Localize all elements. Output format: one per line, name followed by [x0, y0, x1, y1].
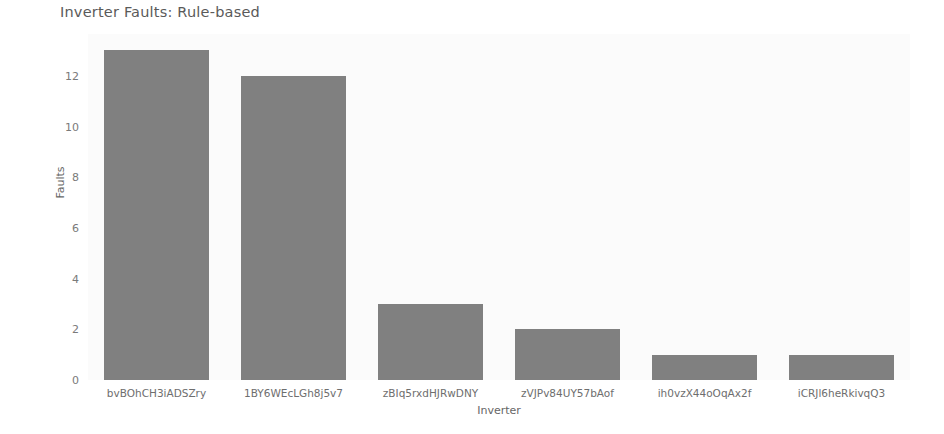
y-axis-label: Faults	[54, 123, 67, 243]
bar[interactable]	[652, 355, 756, 380]
bar-slot: zBIq5rxdHJRwDNY	[362, 34, 499, 380]
bar[interactable]	[515, 329, 619, 380]
bar-slot: zVJPv84UY57bAof	[499, 34, 636, 380]
x-tick-label: 1BY6WEcLGh8j5v7	[244, 387, 343, 399]
y-tick-label: 8	[72, 171, 79, 184]
bar[interactable]	[789, 355, 893, 380]
y-tick-label: 10	[65, 120, 79, 133]
bar-slot: bvBOhCH3iADSZry	[88, 34, 225, 380]
bar-slot: ih0vzX44oOqAx2f	[636, 34, 773, 380]
bar-slot: iCRJl6heRkivqQ3	[773, 34, 910, 380]
bar-series: bvBOhCH3iADSZry1BY6WEcLGh8j5v7zBIq5rxdHJ…	[88, 34, 910, 380]
bar-chart-figure: Inverter Faults: Rule-based Faults 02468…	[0, 0, 944, 434]
x-tick-label: bvBOhCH3iADSZry	[107, 387, 206, 399]
bar[interactable]	[378, 304, 482, 380]
y-tick-label: 4	[72, 272, 79, 285]
x-axis-label: Inverter	[88, 404, 910, 417]
y-tick-label: 6	[72, 221, 79, 234]
x-tick-label: ih0vzX44oOqAx2f	[658, 387, 752, 399]
y-tick-label: 2	[72, 323, 79, 336]
y-tick-label: 0	[72, 374, 79, 387]
bar[interactable]	[104, 50, 208, 380]
y-tick-label: 12	[65, 69, 79, 82]
chart-title: Inverter Faults: Rule-based	[60, 4, 260, 20]
bar[interactable]	[241, 76, 345, 380]
x-tick-label: zBIq5rxdHJRwDNY	[383, 387, 478, 399]
plot-area: Faults 024681012 bvBOhCH3iADSZry1BY6WEcL…	[88, 34, 910, 380]
bar-slot: 1BY6WEcLGh8j5v7	[225, 34, 362, 380]
x-tick-label: iCRJl6heRkivqQ3	[798, 387, 885, 399]
x-tick-label: zVJPv84UY57bAof	[521, 387, 614, 399]
